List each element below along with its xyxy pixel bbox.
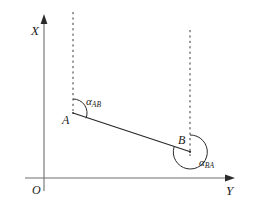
y-axis-arrowhead <box>225 175 235 182</box>
angle-symbol-alpha-ab: α <box>86 95 92 107</box>
angle-symbol-alpha-ba: α <box>199 156 205 168</box>
bearing-angle-diagram: X Y O A B αAB αBA <box>0 0 254 210</box>
point-label-a: A <box>62 114 69 126</box>
vertex-dot-b <box>189 151 191 153</box>
survey-line-ab <box>73 113 191 152</box>
x-axis-label: X <box>31 24 39 37</box>
angle-subscript-alpha-ba: BA <box>205 161 214 170</box>
point-label-b: B <box>178 134 185 146</box>
vertex-dot-a <box>72 112 74 114</box>
origin-label: O <box>32 184 41 196</box>
y-axis-label: Y <box>226 184 233 197</box>
angle-label-alpha-ab: αAB <box>86 96 101 107</box>
angle-subscript-alpha-ab: AB <box>92 100 101 109</box>
angle-label-alpha-ba: αBA <box>199 157 214 168</box>
x-axis-arrowhead <box>41 14 48 24</box>
